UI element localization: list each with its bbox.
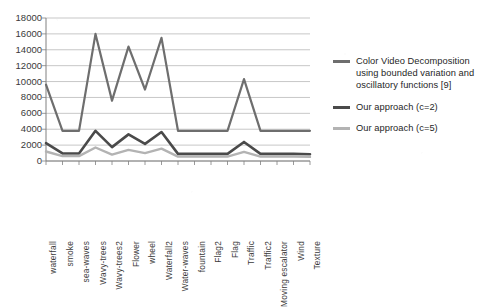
legend-item-label: Our approach (c=5) [356, 122, 438, 134]
legend-item[interactable]: Color Video Decomposition using bounded … [333, 55, 479, 92]
legend-color-swatch [333, 127, 350, 130]
x-axis-tick-label: Water-waves [181, 241, 189, 291]
series-line-0 [46, 34, 310, 131]
x-axis-tick-label: Wavy-trees2 [115, 241, 123, 289]
y-axis: 1800016000140001200010000800060004000200… [0, 12, 42, 167]
legend-item-label: Our approach (c=2) [356, 101, 438, 113]
legend-color-swatch [333, 106, 350, 109]
x-axis-tick-label: Flag [231, 241, 239, 258]
legend-item[interactable]: Our approach (c=5) [333, 122, 479, 134]
x-axis-tick-label: sea-waves [82, 241, 90, 282]
y-axis-tick-label: 4000 [21, 124, 42, 134]
y-axis-tick-label: 16000 [16, 29, 42, 39]
x-axis-tick-label: smoke [66, 241, 74, 266]
chart-legend: Color Video Decomposition using bounded … [333, 55, 479, 143]
x-axis-tick-label: fountain [198, 241, 206, 272]
legend-color-swatch [333, 60, 350, 63]
x-axis-tick-label: Waterfall2 [165, 241, 173, 280]
y-axis-tick-label: 14000 [16, 45, 42, 55]
x-axis-tick-label: Flower [132, 241, 140, 267]
y-axis-tick-label: 10000 [16, 77, 42, 87]
y-axis-tick-label: 0 [37, 156, 42, 166]
legend-item-label: Color Video Decomposition using bounded … [356, 55, 479, 92]
x-axis-tick-label: Wavy-trees [99, 241, 107, 285]
series-line-1 [46, 131, 310, 154]
x-axis-tick-label: Moving escalator [280, 241, 288, 307]
x-axis-tick-label: waterfall [49, 241, 57, 274]
plot-area [46, 18, 310, 161]
plot-svg [46, 18, 310, 161]
x-axis: waterfallsmokesea-wavesWavy-treesWavy-tr… [46, 163, 310, 245]
x-axis-tick-label: Traffic [247, 241, 255, 265]
x-axis-tick-label: Texture [313, 241, 321, 270]
x-axis-tick-label: Traffic2 [264, 241, 272, 270]
y-axis-tick-label: 12000 [16, 61, 42, 71]
legend-item[interactable]: Our approach (c=2) [333, 101, 479, 113]
y-axis-tick-label: 8000 [21, 93, 42, 103]
y-axis-tick-label: 2000 [21, 140, 42, 150]
x-axis-tick-label: Wind [297, 241, 305, 261]
x-axis-tick-label: wheel [148, 241, 156, 264]
x-axis-tick-label: Flag2 [214, 241, 222, 263]
y-axis-tick-label: 18000 [16, 13, 42, 23]
y-axis-tick-label: 6000 [21, 109, 42, 119]
